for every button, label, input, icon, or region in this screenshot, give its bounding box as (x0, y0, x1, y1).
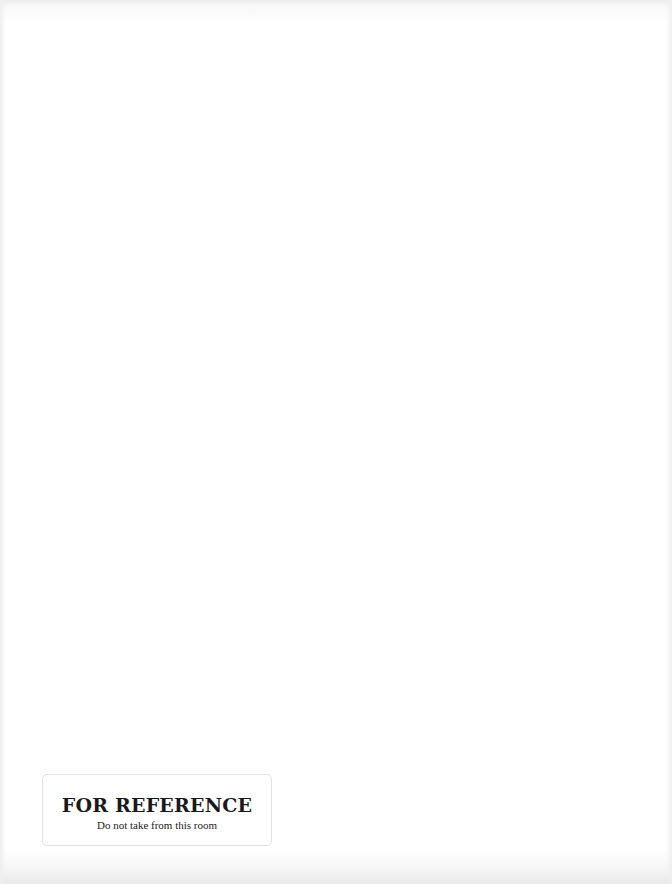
reference-stamp-label: FOR REFERENCE Do not take from this room (42, 774, 272, 846)
page-edge-left (0, 0, 6, 884)
scanned-page: FOR REFERENCE Do not take from this room (0, 0, 672, 884)
stamp-title: FOR REFERENCE (43, 794, 271, 816)
stamp-subtitle: Do not take from this room (43, 819, 271, 832)
page-edge-right (666, 0, 672, 884)
